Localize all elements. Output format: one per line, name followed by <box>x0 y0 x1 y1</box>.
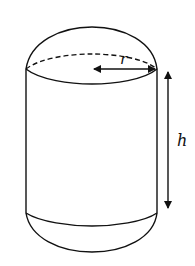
top-ellipse-front <box>26 69 157 84</box>
top-dome <box>26 27 157 69</box>
top-ellipse-back-dashed <box>26 54 157 69</box>
bottom-dome <box>26 213 157 252</box>
bottom-ellipse-front <box>26 213 157 226</box>
radius-label: r <box>120 50 128 68</box>
capsule-diagram: r h <box>0 0 195 266</box>
height-label: h <box>177 131 187 150</box>
